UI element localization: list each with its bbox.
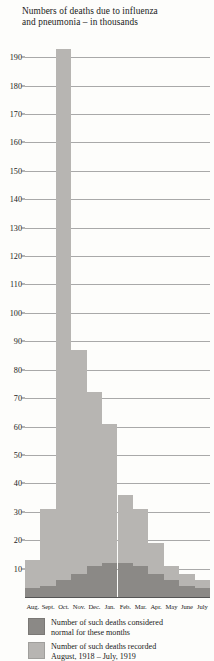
- bar-recorded: [71, 350, 86, 597]
- bar-normal: [133, 566, 148, 597]
- plot-area: [25, 43, 210, 597]
- bar-recorded: [40, 509, 55, 597]
- x-axis-tick-label: May: [164, 603, 179, 610]
- bar-group: [133, 43, 148, 597]
- bar-normal: [56, 580, 71, 597]
- bar-normal: [148, 574, 163, 597]
- bar-group: [71, 43, 86, 597]
- x-axis-tick-label: Sept.: [40, 603, 55, 610]
- chart-figure: Numbers of deaths due to influenza and p…: [0, 0, 214, 661]
- bar-group: [195, 43, 210, 597]
- chart-title-line-2: and pneumonia – in thousands: [22, 17, 208, 28]
- bar-normal: [87, 566, 102, 597]
- legend-swatch-normal-icon: [28, 618, 45, 635]
- chart-legend: Number of such deaths considered normal …: [28, 617, 210, 661]
- legend-item-recorded: Number of such deaths recorded August, 1…: [28, 641, 210, 661]
- bar-normal: [179, 586, 194, 597]
- x-axis-tick-label: July: [195, 603, 210, 610]
- x-axis-tick-label: Aug.: [25, 603, 40, 610]
- bar-recorded: [56, 49, 71, 597]
- legend-label-normal-line-2: normal for these months: [51, 628, 130, 637]
- x-axis-tick-label: Feb.: [118, 603, 133, 610]
- x-axis-tick-label: Mar.: [133, 603, 148, 610]
- legend-swatch-recorded-icon: [28, 642, 45, 659]
- x-axis-tick-label: Oct.: [56, 603, 71, 610]
- bar-group: [56, 43, 71, 597]
- y-axis: 1901801701601501401301201101009080706050…: [0, 43, 25, 597]
- bar-group: [102, 43, 117, 597]
- bar-group: [25, 43, 40, 597]
- x-axis-tick-label: June: [179, 603, 194, 610]
- x-axis: Aug.Sept.Oct.Nov.Dec.Jan.Feb.Mar.Apr.May…: [25, 598, 210, 610]
- bar-normal: [40, 586, 55, 597]
- bar-normal: [164, 580, 179, 597]
- bar-normal: [195, 588, 210, 597]
- legend-label-recorded: Number of such deaths recorded August, 1…: [51, 641, 156, 661]
- bar-group: [148, 43, 163, 597]
- legend-label-recorded-line-1: Number of such deaths recorded: [51, 642, 156, 651]
- legend-item-normal: Number of such deaths considered normal …: [28, 617, 210, 637]
- bar-series-group: [25, 43, 210, 597]
- bar-normal: [118, 563, 133, 597]
- bar-normal: [102, 563, 117, 597]
- bar-normal: [25, 588, 40, 597]
- bar-group: [118, 43, 133, 597]
- x-axis-tick-label: Nov.: [71, 603, 86, 610]
- bar-group: [40, 43, 55, 597]
- bar-group: [87, 43, 102, 597]
- bar-group: [179, 43, 194, 597]
- bar-group: [164, 43, 179, 597]
- x-axis-tick-label: Dec.: [87, 603, 102, 610]
- legend-label-recorded-line-2: August, 1918 – July, 1919: [51, 652, 136, 661]
- legend-label-normal: Number of such deaths considered normal …: [51, 617, 163, 637]
- x-axis-tick-label: Apr.: [148, 603, 163, 610]
- bar-normal: [71, 574, 86, 597]
- x-axis-tick-label: Jan.: [102, 603, 117, 610]
- chart-title: Numbers of deaths due to influenza and p…: [22, 6, 208, 28]
- chart-title-line-1: Numbers of deaths due to influenza: [22, 6, 208, 17]
- legend-label-normal-line-1: Number of such deaths considered: [51, 618, 163, 627]
